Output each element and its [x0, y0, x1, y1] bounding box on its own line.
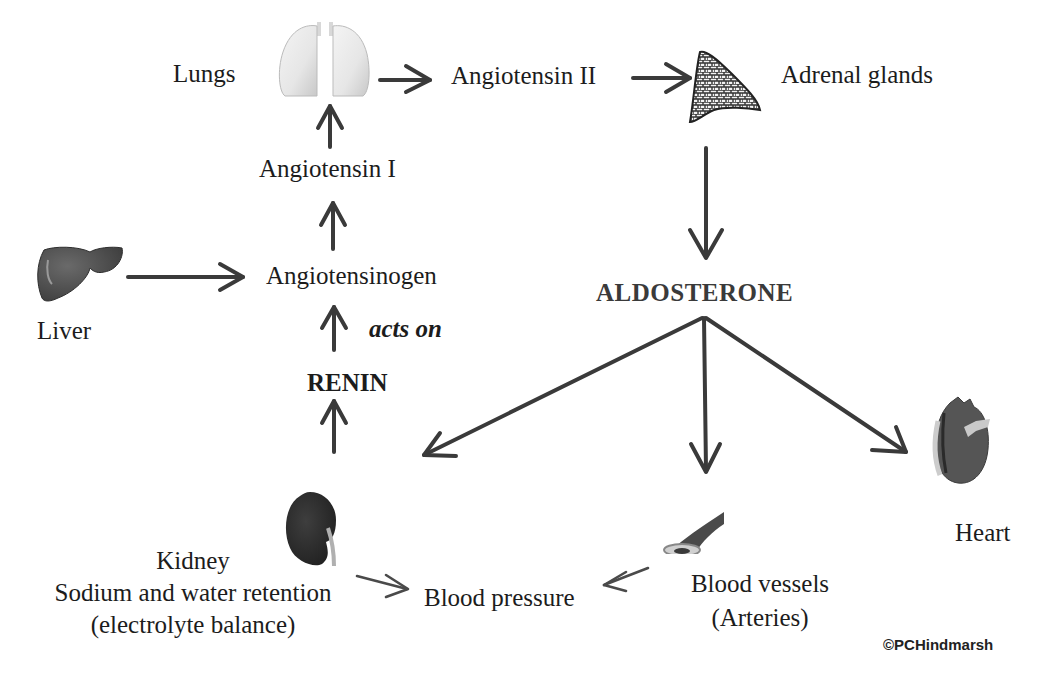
kidney-effect: Sodium and water retention — [33, 579, 353, 607]
arrow-angiotensin-i-to-lungs — [318, 106, 342, 147]
arrow-aldosterone-to-blood-vessels — [691, 318, 720, 472]
blood-vessels-note: (Arteries) — [680, 604, 840, 632]
arrow-angiotensin-ii-to-adrenal — [633, 64, 690, 92]
arrow-blood-vessels-to-blood-pressure — [604, 568, 648, 591]
label-aldosterone: ALDOSTERONE — [596, 279, 793, 307]
label-angiotensin-ii: Angiotensin II — [451, 62, 596, 90]
label-renin: RENIN — [307, 369, 388, 397]
arrow-kidney-to-blood-pressure — [357, 575, 408, 597]
arrow-aldosterone-to-kidney — [424, 318, 702, 456]
arrow-aldosterone-to-heart — [706, 318, 906, 452]
label-heart: Heart — [955, 519, 1011, 547]
arrow-lungs-to-angiotensin-ii — [380, 66, 430, 92]
heart-icon — [928, 393, 996, 489]
label-blood-vessels: Blood vessels (Arteries) — [680, 570, 840, 632]
copyright-notice: ©PCHindmarsh — [883, 636, 993, 653]
arrow-liver-to-angiotensinogen — [128, 264, 243, 290]
lungs-icon — [275, 18, 375, 102]
label-blood-pressure: Blood pressure — [424, 584, 575, 612]
label-lungs: Lungs — [173, 60, 236, 88]
kidney-note: (electrolyte balance) — [33, 611, 353, 639]
liver-icon — [34, 244, 126, 304]
kidney-title: Kidney — [33, 547, 353, 575]
label-liver: Liver — [37, 317, 91, 345]
arrow-renin-to-angiotensinogen — [322, 307, 346, 350]
label-kidney: Kidney Sodium and water retention (elect… — [33, 547, 353, 639]
arrow-adrenal-to-aldosterone — [690, 148, 722, 258]
label-acts-on: acts on — [369, 315, 442, 343]
blood-vessels-title: Blood vessels — [680, 570, 840, 598]
adrenal-gland-icon — [686, 48, 766, 124]
artery-icon — [660, 510, 726, 554]
arrow-angiotensinogen-to-angiotensin-i — [321, 203, 345, 249]
label-adrenal-glands: Adrenal glands — [781, 61, 933, 89]
arrow-kidney-to-renin — [322, 401, 346, 452]
label-angiotensin-i: Angiotensin I — [259, 155, 396, 183]
label-angiotensinogen: Angiotensinogen — [266, 262, 437, 290]
